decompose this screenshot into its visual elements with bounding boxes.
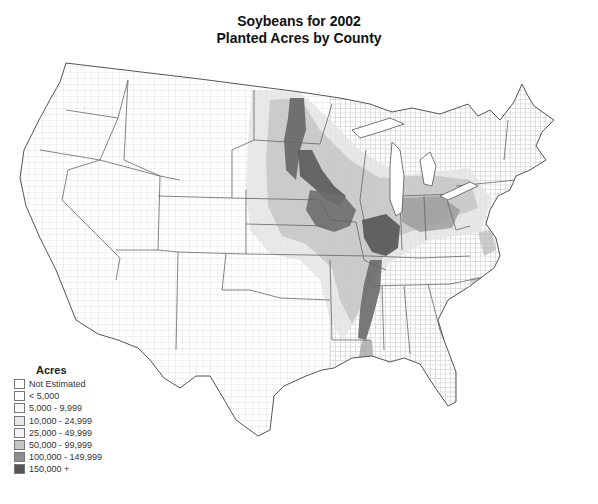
legend-label: 50,000 - 99,999	[29, 440, 92, 450]
legend-swatch	[14, 440, 25, 450]
legend-item: 5,000 - 9,999	[14, 402, 102, 414]
legend-item: 150,000 +	[14, 463, 102, 475]
legend-item: Not Estimated	[14, 378, 102, 390]
legend-item: 100,000 - 149,999	[14, 451, 102, 463]
legend-title: Acres	[36, 364, 102, 376]
legend-swatch	[14, 416, 25, 426]
legend-swatch	[14, 391, 25, 401]
legend-swatch	[14, 379, 25, 389]
legend-label: 150,000 +	[29, 464, 69, 474]
legend-label: 25,000 - 49,999	[29, 428, 92, 438]
legend-item: 50,000 - 99,999	[14, 439, 102, 451]
legend-swatch	[14, 452, 25, 462]
legend-label: 5,000 - 9,999	[29, 403, 82, 413]
map-legend: Acres Not Estimated < 5,000 5,000 - 9,99…	[14, 364, 102, 476]
legend-label: 10,000 - 24,999	[29, 416, 92, 426]
legend-swatch	[14, 403, 25, 413]
legend-label: 100,000 - 149,999	[29, 452, 102, 462]
legend-item: 25,000 - 49,999	[14, 427, 102, 439]
legend-item: < 5,000	[14, 390, 102, 402]
legend-swatch	[14, 464, 25, 474]
legend-item: 10,000 - 24,999	[14, 415, 102, 427]
legend-swatch	[14, 428, 25, 438]
legend-label: < 5,000	[29, 391, 59, 401]
legend-label: Not Estimated	[29, 379, 86, 389]
